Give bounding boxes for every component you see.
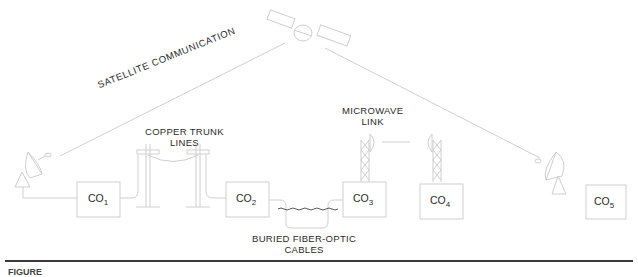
microwave-link-label: MICROWAVE LINK bbox=[342, 105, 403, 127]
office-label-co4: CO4 bbox=[430, 194, 450, 209]
copper-label-line1: COPPER TRUNK bbox=[145, 126, 224, 137]
fiber-optic-cable bbox=[278, 208, 338, 210]
office-label-co2: CO2 bbox=[236, 192, 256, 207]
fiber-optic-label: BURIED FIBER-OPTIC CABLES bbox=[252, 233, 356, 255]
office-label-co3: CO3 bbox=[353, 192, 373, 207]
microwave-tower-icon-1 bbox=[361, 134, 374, 182]
copper-trunk-label: COPPER TRUNK LINES bbox=[145, 126, 224, 148]
caption-rule bbox=[5, 260, 633, 262]
satellite-icon bbox=[267, 10, 351, 46]
figure-caption: FIGURE bbox=[8, 267, 42, 277]
copper-label-line2: LINES bbox=[145, 137, 224, 148]
utility-pole-icon-1 bbox=[136, 144, 160, 207]
microwave-label-line2: LINK bbox=[342, 116, 403, 127]
office-label-co5: CO5 bbox=[594, 195, 614, 210]
copper-trunk-line bbox=[148, 155, 198, 162]
fiber-label-line2: CABLES bbox=[252, 244, 356, 255]
microwave-tower-icon-2 bbox=[428, 134, 441, 182]
dish-antenna-icon-left bbox=[15, 152, 77, 198]
office-label-co1: CO1 bbox=[88, 192, 108, 207]
fiber-label-line1: BURIED FIBER-OPTIC bbox=[252, 233, 356, 244]
microwave-label-line1: MICROWAVE bbox=[342, 105, 403, 116]
